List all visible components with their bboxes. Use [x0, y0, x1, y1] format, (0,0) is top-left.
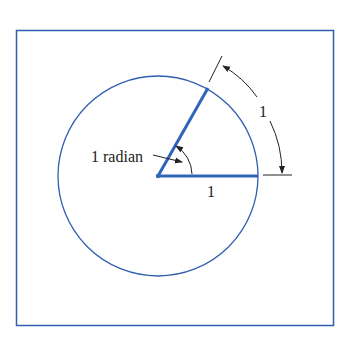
radius-label: 1 — [207, 183, 215, 200]
center-point — [156, 174, 160, 178]
arc-dimension-arrow-top — [223, 66, 257, 97]
angle-arc-arrow — [176, 146, 192, 174]
radius-angled — [158, 88, 208, 176]
frame-border — [17, 31, 334, 326]
arc-length-label: 1 — [259, 103, 267, 120]
arc-tick-top — [209, 56, 222, 82]
angle-label: 1 radian — [91, 148, 143, 165]
radian-diagram: 1 radian 1 1 — [0, 0, 351, 339]
arc-dimension-arrow-bottom — [270, 121, 282, 173]
